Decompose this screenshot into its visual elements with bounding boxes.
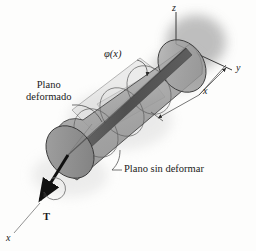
label-undeformed-plane: Plano sin deformar bbox=[124, 163, 204, 175]
label-torque: T bbox=[43, 211, 50, 223]
label-deformed-plane-line2: deformado bbox=[26, 91, 71, 103]
axis-label-z: z bbox=[172, 2, 176, 14]
label-distance-x: x bbox=[203, 85, 207, 97]
label-deformed-plane: Plano deformado bbox=[26, 79, 71, 103]
axis-label-y: y bbox=[236, 62, 240, 74]
figure-canvas bbox=[0, 0, 256, 251]
leader-undeformed bbox=[112, 150, 122, 170]
axis-label-x: x bbox=[6, 232, 10, 244]
torsion-figure: z y x φ(x) Plano deformado Plano sin def… bbox=[0, 0, 256, 251]
label-deformed-plane-line1: Plano bbox=[26, 79, 71, 91]
label-angle-of-twist: φ(x) bbox=[104, 48, 121, 60]
